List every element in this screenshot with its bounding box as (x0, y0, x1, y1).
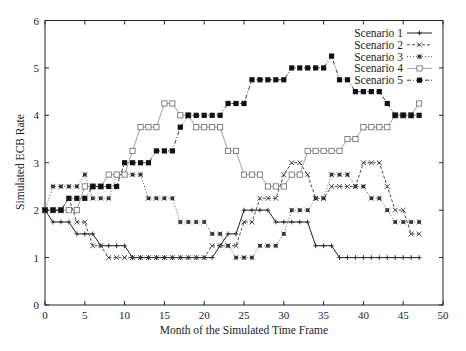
y-tick-label: 6 (34, 15, 40, 27)
x-axis-label: Month of the Simulated Time Frame (160, 324, 328, 336)
legend-item: Scenario 3 (354, 51, 432, 63)
y-tick-label: 1 (34, 252, 40, 264)
legend-label: Scenario 5 (354, 74, 403, 86)
x-tick-label: 25 (239, 309, 251, 321)
legend-label: Scenario 1 (354, 27, 403, 39)
x-tick-label: 30 (278, 309, 290, 321)
x-tick-label: 35 (318, 309, 330, 321)
series-4 (42, 101, 421, 213)
legend-item: Scenario 1 (354, 27, 432, 39)
legend-item: Scenario 4 (354, 62, 432, 74)
y-tick-label: 2 (34, 204, 40, 216)
x-tick-label: 0 (42, 309, 48, 321)
line-chart: 051015202530354045500123456 Scenario 1Sc… (0, 0, 466, 351)
x-tick-label: 40 (358, 309, 370, 321)
legend: Scenario 1Scenario 2Scenario 3Scenario 4… (354, 27, 432, 86)
series-2 (43, 160, 422, 260)
legend-item: Scenario 2 (354, 39, 432, 51)
x-tick-label: 5 (82, 309, 88, 321)
x-tick-label: 20 (199, 309, 211, 321)
y-tick-label: 0 (34, 299, 40, 311)
x-tick-label: 15 (159, 309, 171, 321)
y-tick-label: 4 (34, 109, 40, 121)
x-tick-label: 50 (438, 309, 450, 321)
legend-label: Scenario 4 (354, 62, 403, 74)
legend-label: Scenario 2 (354, 39, 403, 51)
legend-item: Scenario 5 (354, 74, 432, 86)
y-tick-label: 3 (34, 157, 40, 169)
x-tick-label: 45 (398, 309, 410, 321)
legend-label: Scenario 3 (354, 51, 403, 63)
y-tick-label: 5 (34, 62, 40, 74)
x-tick-label: 10 (119, 309, 131, 321)
y-axis-label: Simulated ECB Rate (14, 114, 26, 210)
